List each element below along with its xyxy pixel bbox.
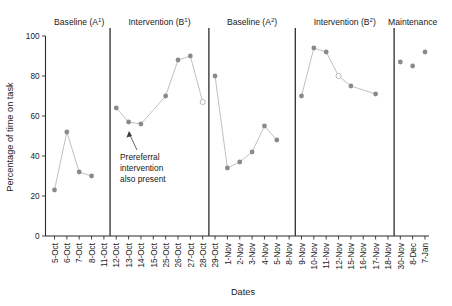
annotation-line-1: Prereferral — [120, 152, 160, 162]
x-tick-label: 2-Nov — [236, 242, 245, 265]
x-tick-label: 28-Oct — [199, 242, 208, 267]
data-point — [410, 64, 415, 69]
data-point — [237, 160, 242, 165]
y-tick-label: 20 — [30, 192, 40, 201]
x-tick-label: 29-Oct — [211, 242, 220, 267]
data-point — [176, 58, 181, 63]
annotation-line-3: also present — [120, 174, 166, 184]
y-axis-title: Percentage of time on task — [5, 82, 15, 192]
phase-label: Intervention (B2) — [314, 17, 376, 27]
data-point — [139, 122, 144, 127]
x-tick-label: 25-Oct — [162, 242, 171, 267]
x-tick-label: 12-Oct — [112, 242, 121, 267]
x-tick-label: 11-Nov — [322, 242, 331, 269]
data-point — [262, 124, 267, 129]
data-point-open — [336, 73, 341, 78]
x-tick-label: 5-Oct — [51, 242, 60, 263]
single-subject-line-chart: 020406080100 Baseline (A1)Intervention (… — [0, 0, 452, 306]
phase-label: Baseline (A2) — [227, 17, 277, 27]
x-tick-label: 10-Nov — [310, 242, 319, 269]
phase-label: Baseline (A1) — [54, 17, 104, 27]
data-point — [299, 94, 304, 99]
annotation-line-2: intervention — [120, 163, 164, 173]
y-tick-label: 100 — [26, 32, 40, 41]
data-point — [324, 50, 329, 55]
x-tick-label: 3-Nov — [248, 242, 257, 265]
x-tick-label: 9-Nov — [298, 242, 307, 265]
data-point-open — [200, 99, 205, 104]
x-tick-label: 7-Oct — [75, 242, 84, 263]
x-tick-labels: 5-Oct6-Oct7-Oct8-Oct11-Oct12-Oct13-Oct14… — [51, 242, 431, 269]
x-axis-title: Dates — [231, 287, 255, 297]
data-point — [225, 166, 230, 171]
x-tick-label: 8-Oct — [88, 242, 97, 263]
x-tick-label: 18-Nov — [384, 242, 393, 269]
data-point — [64, 130, 69, 135]
y-tick-label: 80 — [30, 72, 40, 81]
data-point — [163, 94, 168, 99]
x-tick-label: 13-Oct — [125, 242, 134, 267]
phase-label: Intervention (B1) — [128, 17, 190, 27]
data-point — [126, 120, 131, 125]
x-tick-label: 27-Oct — [187, 242, 196, 267]
data-point — [89, 174, 94, 179]
data-point — [188, 54, 193, 59]
chart-container: 020406080100 Baseline (A1)Intervention (… — [0, 0, 452, 306]
x-tick-label: 1-Nov — [224, 242, 233, 265]
x-tick-label: 8-Nov — [285, 242, 294, 265]
x-tick-label: 12-Nov — [335, 242, 344, 269]
data-point — [274, 138, 279, 143]
y-tick-label: 40 — [30, 152, 40, 161]
x-tick-label: 5-Nov — [273, 242, 282, 265]
data-point — [114, 106, 119, 111]
x-tick-label: 8-Dec — [409, 243, 418, 265]
x-tick-label: 26-Oct — [174, 242, 183, 267]
x-tick-label: 7-Jan — [421, 243, 430, 264]
x-tick-label: 15-Nov — [347, 242, 356, 269]
x-tick-label: 17-Nov — [372, 242, 381, 269]
data-point — [250, 150, 255, 155]
x-tick-label: 16-Nov — [359, 242, 368, 269]
data-point — [398, 60, 403, 65]
data-point — [213, 74, 218, 79]
x-tick-label: 14-Oct — [137, 242, 146, 267]
data-point — [423, 50, 428, 55]
data-point — [77, 170, 82, 175]
x-tick-label: 6-Oct — [63, 242, 72, 263]
data-point — [52, 188, 57, 193]
data-point — [349, 84, 354, 89]
data-point — [311, 46, 316, 51]
x-tick-label: 30-Nov — [397, 242, 406, 269]
x-tick-label: 4-Nov — [261, 242, 270, 265]
x-tick-label: 11-Oct — [100, 242, 109, 267]
data-point — [373, 92, 378, 97]
phase-label: Maintenance — [388, 17, 437, 27]
x-tick-label: 15-Oct — [150, 242, 159, 267]
y-tick-label: 0 — [35, 232, 40, 241]
y-tick-label: 60 — [30, 112, 40, 121]
